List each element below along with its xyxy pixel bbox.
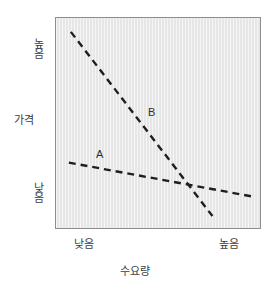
- x-axis-title: 수요량: [120, 262, 150, 278]
- y-axis-tick-low: 낮음: [32, 182, 43, 202]
- x-axis-tick-high: 높음: [219, 235, 239, 251]
- y-axis-title: 가격: [14, 111, 34, 127]
- plot-area: [55, 17, 261, 229]
- x-axis-tick-low: 낮음: [74, 235, 94, 251]
- curve-b-line: [71, 32, 213, 216]
- y-axis-tick-high: 높음: [32, 38, 43, 58]
- curve-b-label: B: [148, 106, 156, 118]
- curve-layer: [56, 18, 260, 228]
- curve-a-label: A: [96, 148, 104, 160]
- demand-curve-chart: A B 높음 낮음 가격 낮음 높음 수요량: [0, 0, 280, 287]
- curve-a-line: [69, 163, 251, 197]
